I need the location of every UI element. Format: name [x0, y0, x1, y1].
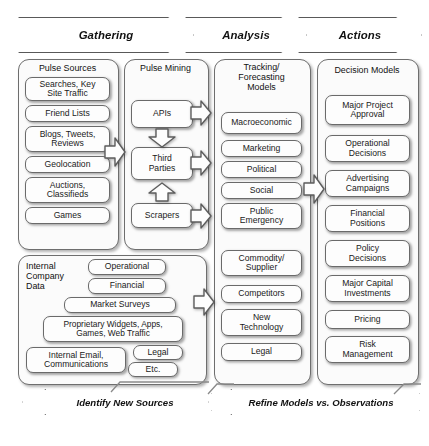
arrow-right-apis-to-models	[190, 100, 212, 126]
box-internal-email-communications[interactable]: Internal Email, Communications	[26, 347, 126, 373]
box-social[interactable]: Social	[221, 182, 302, 199]
arrow-up-scrapers-to-third-parties	[148, 182, 176, 202]
box-games[interactable]: Games	[25, 207, 110, 224]
box-legal-internal[interactable]: Legal	[133, 345, 183, 360]
box-new-technology[interactable]: New Technology	[221, 309, 302, 336]
box-advertising-campaigns[interactable]: Advertising Campaigns	[325, 170, 410, 197]
connector-feedback-to-sources	[100, 379, 210, 391]
box-blogs-tweets-reviews[interactable]: Blogs, Tweets, Reviews	[25, 126, 110, 152]
box-competitors[interactable]: Competitors	[221, 285, 302, 303]
box-geolocation[interactable]: Geolocation	[25, 156, 110, 173]
box-risk-management[interactable]: Risk Management	[325, 336, 410, 363]
box-proprietary-widgets-apps-games-web-traffic[interactable]: Proprietary Widgets, Apps, Games, Web Tr…	[43, 316, 183, 342]
connector-decisions-to-feedback	[390, 381, 422, 393]
panel-title-decision-models: Decision Models	[317, 66, 417, 76]
box-political[interactable]: Political	[221, 161, 302, 178]
panel-title-internal-company-data: Internal Company Data	[26, 262, 82, 292]
box-etc[interactable]: Etc.	[128, 362, 178, 377]
box-auctions-classifieds[interactable]: Auctions, Classifieds	[25, 177, 110, 203]
box-legal-models[interactable]: Legal	[221, 343, 302, 361]
box-third-parties[interactable]: Third Parties	[131, 147, 193, 180]
arrow-down-apis-to-third-parties	[148, 128, 176, 148]
panel-title-pulse-sources: Pulse Sources	[18, 64, 117, 74]
arrow-right-third-parties-to-models	[190, 150, 212, 176]
box-public-emergency[interactable]: Public Emergency	[221, 203, 302, 229]
arrow-right-internal-data-to-models	[193, 288, 215, 316]
panel-title-tracking-forecasting-models: Tracking/ Forecasting Models	[214, 63, 309, 93]
box-major-project-approval[interactable]: Major Project Approval	[325, 95, 410, 125]
box-major-capital-investments[interactable]: Major Capital Investments	[325, 275, 410, 302]
feedback-refine-models: Refine Models vs. Observations	[208, 389, 420, 415]
arrow-right-models-to-decisions	[303, 174, 325, 204]
phase-chevron-actions: Actions	[298, 17, 422, 53]
box-friend-lists[interactable]: Friend Lists	[25, 105, 110, 122]
box-pricing[interactable]: Pricing	[325, 310, 410, 329]
phase-chevron-analysis: Analysis	[185, 17, 307, 53]
diagram-canvas: Gathering Analysis Actions Pulse Sources…	[0, 0, 429, 446]
phase-label-actions: Actions	[339, 29, 381, 41]
feedback-label-refine-models: Refine Models vs. Observations	[234, 397, 393, 408]
panel-title-pulse-mining: Pulse Mining	[124, 64, 207, 74]
arrow-right-scrapers-to-models	[190, 203, 212, 229]
box-scrapers[interactable]: Scrapers	[131, 203, 193, 228]
feedback-label-identify-new-sources: Identify New Sources	[60, 397, 173, 408]
box-searches-key-site-traffic[interactable]: Searches, Key Site Traffic	[25, 77, 110, 101]
box-financial-positions[interactable]: Financial Positions	[325, 205, 410, 232]
box-financial[interactable]: Financial	[88, 278, 166, 294]
arrow-right-sources-to-mining	[104, 137, 126, 167]
phase-label-gathering: Gathering	[79, 29, 134, 41]
box-operational-decisions[interactable]: Operational Decisions	[325, 135, 410, 162]
phase-chevron-gathering: Gathering	[18, 17, 194, 53]
box-market-surveys[interactable]: Market Surveys	[64, 297, 176, 313]
box-operational[interactable]: Operational	[88, 259, 166, 275]
phase-label-analysis: Analysis	[222, 29, 270, 41]
box-policy-decisions[interactable]: Policy Decisions	[325, 240, 410, 267]
box-marketing[interactable]: Marketing	[221, 140, 302, 157]
box-commodity-supplier[interactable]: Commodity/ Supplier	[221, 250, 302, 276]
box-macroeconomic[interactable]: Macroeconomic	[221, 112, 302, 134]
box-apis[interactable]: APIs	[131, 100, 193, 128]
